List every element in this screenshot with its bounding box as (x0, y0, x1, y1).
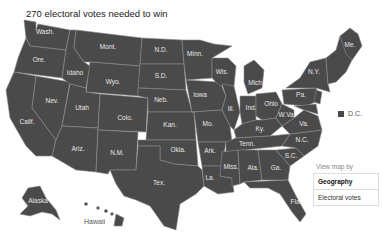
state-label: Tenn. (239, 140, 255, 147)
state-label: Tex. (153, 179, 165, 186)
state-label: Miss. (223, 163, 238, 170)
state-label: Fla. (291, 198, 302, 205)
state-label: Ga. (271, 164, 282, 171)
state-wa[interactable] (24, 20, 70, 50)
view-map-by-panel: View map by Geography Electoral votes (313, 163, 379, 206)
state-label: W.Va. (279, 111, 296, 118)
state-ny[interactable] (286, 58, 330, 92)
state-label: Minn. (187, 50, 203, 57)
state-label: Ore. (33, 56, 46, 63)
state-label: Wash. (36, 28, 54, 35)
dc-label: D.C. (348, 110, 362, 117)
hawaii-label: Hawaii (84, 218, 105, 225)
state-label: N.Y. (308, 68, 320, 75)
view-option-geography[interactable]: Geography (313, 173, 379, 190)
view-map-by-label: View map by (313, 163, 379, 173)
state-label: S.C. (285, 152, 298, 159)
state-label: Okla. (170, 146, 185, 153)
state-label: Nev. (46, 97, 59, 104)
state-label: Ind. (246, 104, 257, 111)
state-label: Mont. (100, 43, 116, 50)
state-label: Ky. (256, 125, 265, 133)
view-option-electoral-votes[interactable]: Electoral votes (313, 190, 379, 206)
state-label: Calif. (20, 118, 35, 125)
state-label: Wis. (216, 68, 229, 75)
state-label: Mich. (248, 79, 264, 86)
state-label: Mo. (203, 120, 214, 127)
state-label: Idaho (67, 69, 84, 76)
state-label: Alaska (28, 197, 48, 204)
state-label: S.D. (155, 72, 168, 79)
state-label: Utah (75, 104, 89, 111)
state-label: Ariz. (72, 145, 85, 152)
state-label: N.D. (155, 46, 168, 53)
state-label: N.M. (110, 149, 124, 156)
state-label: Ala. (247, 164, 258, 171)
state-label: Iowa (193, 91, 207, 98)
state-label: Wyo. (106, 78, 121, 86)
state-label: Pa. (296, 91, 306, 98)
state-label: La. (205, 174, 214, 181)
state-label: Neb. (154, 96, 168, 103)
dc-swatch-icon (338, 111, 344, 117)
state-label: Ohio (264, 100, 278, 107)
state-label: Me. (345, 41, 356, 48)
state-label: Colo. (117, 114, 132, 121)
state-label: Ill. (228, 105, 235, 112)
state-label: Kan. (163, 121, 177, 128)
dc-legend[interactable]: D.C. (338, 110, 362, 117)
state-co[interactable] (98, 94, 148, 132)
state-label: Ark. (204, 147, 216, 154)
state-label: N.C. (296, 136, 309, 143)
state-mi[interactable] (244, 60, 264, 94)
state-label: Va. (299, 120, 308, 127)
